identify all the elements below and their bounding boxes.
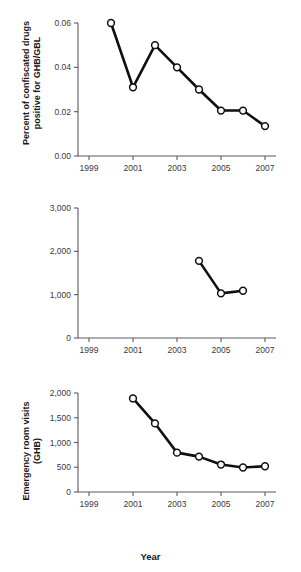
x-tick-label: 2003: [168, 499, 187, 509]
y-tick-label: 0.02: [54, 107, 71, 117]
x-tick-label: 2001: [124, 499, 143, 509]
data-point-marker: [152, 420, 159, 427]
x-tick-label: 2007: [256, 163, 275, 173]
data-point-marker: [130, 84, 137, 91]
x-tick-label: 1999: [80, 499, 99, 509]
data-point-marker: [262, 123, 269, 130]
data-point-marker: [196, 453, 203, 460]
x-tick-label: 2001: [124, 345, 143, 355]
x-tick-label: 1999: [80, 163, 99, 173]
y-tick-label: 1,500: [50, 413, 72, 423]
y-tick-label: 0.06: [54, 18, 71, 28]
axis-spine: [78, 23, 276, 156]
y-tick-label: 0: [66, 333, 71, 343]
data-point-marker: [218, 107, 225, 114]
x-tick-label: 2005: [212, 345, 231, 355]
y-tick-label: 2,000: [50, 388, 72, 398]
data-point-marker: [152, 42, 159, 49]
y-tick-label: 2,000: [50, 246, 72, 256]
y-tick-label: 500: [57, 462, 71, 472]
data-point-marker: [218, 290, 225, 297]
panel-confiscated-drugs: 0.000.020.040.0619992001200320052007 Per…: [0, 0, 301, 190]
panel-poison-control-exposures: 05001,0001,5002,00019992001200320052007 …: [0, 370, 301, 572]
y-axis-label-line-1: Percent of confiscated drugs: [21, 13, 32, 153]
data-point-marker: [130, 395, 137, 402]
y-tick-label: 0.04: [54, 62, 71, 72]
data-point-marker: [240, 287, 247, 294]
x-tick-label: 2005: [212, 499, 231, 509]
x-tick-label: 2007: [256, 499, 275, 509]
data-point-marker: [174, 449, 181, 456]
plot-area-confiscated-drugs: 0.000.020.040.0619992001200320052007: [0, 0, 301, 190]
y-tick-label: 1,000: [50, 290, 72, 300]
plot-area-emergency-room-visits: 01,0002,0003,00019992001200320052007: [0, 185, 301, 375]
panel-emergency-room-visits: 01,0002,0003,00019992001200320052007 Eme…: [0, 185, 301, 375]
x-tick-label: 2003: [168, 345, 187, 355]
y-tick-label: 3,000: [50, 203, 72, 213]
series-line: [199, 261, 243, 294]
multi-panel-figure: 0.000.020.040.0619992001200320052007 Per…: [0, 0, 301, 572]
y-axis-label-confiscated-drugs: Percent of confiscated drugs positive fo…: [21, 13, 43, 153]
plot-area-poison-control-exposures: 05001,0001,5002,00019992001200320052007: [0, 370, 301, 572]
x-axis-label: Year: [0, 551, 301, 562]
x-tick-label: 2007: [256, 345, 275, 355]
y-tick-label: 0: [66, 487, 71, 497]
y-tick-label: 0.00: [54, 151, 71, 161]
axis-spine: [78, 393, 276, 492]
x-tick-label: 1999: [80, 345, 99, 355]
x-tick-label: 2005: [212, 163, 231, 173]
data-point-marker: [108, 20, 115, 27]
data-point-marker: [174, 64, 181, 71]
data-point-marker: [196, 86, 203, 93]
axis-spine: [78, 208, 276, 338]
data-point-marker: [196, 257, 203, 264]
data-point-marker: [262, 463, 269, 470]
data-point-marker: [240, 107, 247, 114]
data-point-marker: [218, 461, 225, 468]
data-point-marker: [240, 464, 247, 471]
y-tick-label: 1,000: [50, 438, 72, 448]
x-tick-label: 2001: [124, 163, 143, 173]
y-axis-label-line-2: positive for GHB/GBL: [32, 13, 43, 153]
x-tick-label: 2003: [168, 163, 187, 173]
